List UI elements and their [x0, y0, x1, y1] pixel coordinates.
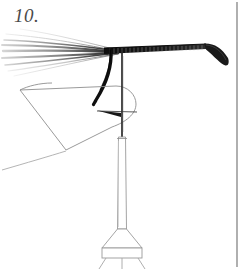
column-tube — [117, 137, 127, 229]
bent-tip — [204, 43, 229, 65]
cone-flare — [102, 229, 142, 248]
fiber-fan — [2, 29, 118, 76]
vertical-rod — [122, 50, 123, 137]
base-legs — [99, 258, 145, 269]
engraving-plate: 10. — [0, 0, 250, 269]
base-block — [102, 248, 142, 258]
trailing-line — [2, 151, 66, 170]
figure-illustration — [0, 0, 250, 269]
ribbed-shaft — [104, 44, 206, 54]
